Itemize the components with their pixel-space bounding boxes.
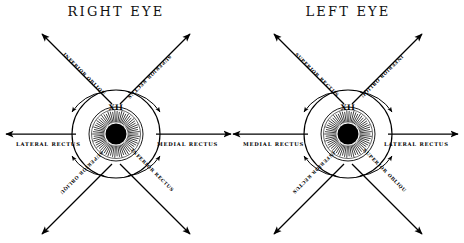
label-lower-right-text: INFERIOR RECTUS bbox=[130, 148, 175, 193]
label-upper-left: SUPERIOR RECTUS bbox=[294, 52, 340, 98]
label-right: MEDIAL RECTUS bbox=[157, 141, 218, 147]
label-upper-left-text: SUPERIOR RECTUS bbox=[294, 52, 340, 98]
arc-upper-left bbox=[304, 92, 336, 112]
nerve-label-xii: XII bbox=[109, 103, 124, 112]
right-eye-drawing: XII INFERIOR OBLIQUE SUPER bbox=[0, 0, 232, 243]
label-lower-left-text: SUPERIOR OBLIQUE bbox=[0, 0, 104, 195]
left-eye-panel: LEFT EYE XII bbox=[232, 0, 464, 243]
label-upper-right: SUPERIOR RECTUS bbox=[126, 54, 172, 100]
right-eye-panel: RIGHT EYE bbox=[0, 0, 232, 243]
label-lower-left: SUPERIOR OBLIQUE bbox=[0, 0, 104, 195]
label-upper-left-text: INFERIOR OBLIQUE bbox=[0, 0, 107, 96]
label-lower-right: INFERIOR RECTUS bbox=[130, 148, 175, 193]
pupil bbox=[338, 124, 359, 145]
label-upper-right: INFERIOR OBLIQUE bbox=[232, 0, 404, 99]
label-upper-left: INFERIOR OBLIQUE bbox=[0, 0, 107, 96]
left-eye-drawing: XII SUPERIOR RECTUS INFERIOR OBLIQUE INF… bbox=[232, 0, 464, 243]
label-lower-left-text: INFERIOR RECTUS bbox=[291, 150, 336, 195]
nerve-label-xii: XII bbox=[341, 103, 356, 112]
pupil bbox=[106, 124, 127, 145]
label-lower-left: INFERIOR RECTUS bbox=[291, 150, 336, 195]
arc-upper-left bbox=[72, 92, 104, 112]
label-left: MEDIAL RECTUS bbox=[243, 141, 304, 147]
label-right: LATERAL RECTUS bbox=[384, 141, 449, 147]
label-left: LATERAL RECTUS bbox=[16, 141, 81, 147]
label-upper-right-text: SUPERIOR RECTUS bbox=[126, 54, 172, 100]
label-upper-right-text: INFERIOR OBLIQUE bbox=[232, 0, 404, 99]
eye-muscle-diagram: RIGHT EYE bbox=[0, 0, 464, 243]
